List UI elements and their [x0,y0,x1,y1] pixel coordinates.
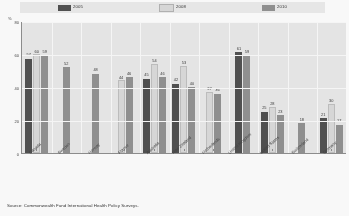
x-tick-mark [243,149,244,151]
y-axis-unit-label: % [8,16,12,21]
y-tick-label: 60 [15,53,19,58]
bar-value-label: 61 [237,47,241,51]
group-separator [111,22,112,153]
group-separator [317,22,318,153]
bar-value-label: 30 [329,99,333,103]
group-separator [258,22,259,153]
gridline [22,121,346,122]
group-separator [140,22,141,153]
group-separator [81,22,82,153]
bar-value-label: 45 [144,73,148,77]
bar-2010: 40 [188,87,195,153]
x-tick-mark [184,149,185,151]
bar-2010: 59 [41,56,48,153]
bar-2010: 48 [92,74,99,153]
y-tick-label: 40 [15,86,19,91]
plot-area: % 806040200 5760595248444645544642534037… [0,16,349,161]
x-tick-mark [213,149,214,151]
bar-value-label: 42 [174,78,178,82]
group-separator [52,22,53,153]
bar-value-label: 25 [262,106,266,110]
bar-value-label: 59 [43,50,47,54]
bar-value-label: 46 [127,72,131,76]
y-tick-label: 0 [17,152,19,157]
legend-swatch-icon [159,4,174,12]
chart-legend: 200520082010 [20,2,325,13]
x-axis-category: France [110,150,140,196]
y-axis: 806040200 [0,22,21,154]
bar-2010: 52 [63,67,70,153]
x-axis-category: Sweden [51,150,81,196]
chart-page: 200520082010 % 806040200 576059524844464… [0,0,349,216]
x-axis-category: Switzerland [287,150,317,196]
x-axis-labels: CanadaSwedenNorwayFranceAustraliaNew Zea… [21,150,346,196]
group-separator [199,22,200,153]
bar-value-label: 54 [152,59,156,63]
y-tick-label: 20 [15,119,19,124]
bar-value-label: 48 [93,68,97,72]
legend-label: 2008 [176,5,186,9]
x-tick-mark [302,149,303,151]
x-tick-mark [331,149,332,151]
bar-value-label: 60 [35,50,39,54]
legend-item-2008: 2008 [159,4,186,12]
bar-value-label: 52 [64,62,68,66]
bar-value-label: 28 [270,102,274,106]
bar-2005: 57 [25,59,32,153]
bar-2005: 45 [143,79,150,153]
group-separator [229,22,230,153]
x-axis-category: United Kingdom [228,150,258,196]
bar-value-label: 53 [182,61,186,65]
x-axis-category: Canada [21,150,51,196]
bar-value-label: 46 [160,72,164,76]
bar-2008: 44 [118,80,125,153]
x-axis-category: Norway [80,150,110,196]
bar-value-label: 21 [321,113,325,117]
legend-swatch-icon [58,5,71,11]
x-tick-mark [272,149,273,151]
legend-item-2010: 2010 [262,5,287,11]
bar-value-label: 59 [245,50,249,54]
legend-label: 2005 [73,5,83,9]
x-axis-category: United States [257,150,287,196]
group-separator [288,22,289,153]
bar-2008: 60 [33,54,40,153]
legend-item-2005: 2005 [58,5,83,11]
gridline [22,88,346,89]
x-axis-category: Netherlands [198,150,228,196]
legend-swatch-icon [262,5,275,11]
gridline [22,55,346,56]
y-tick-label: 80 [15,20,19,25]
bar-value-label: 44 [119,76,123,80]
plot-panel: 5760595248444645544642534037366159252823… [21,22,346,154]
bar-value-label: 23 [278,110,282,114]
gridline [22,22,346,23]
x-axis-category: New Zealand [169,150,199,196]
legend-label: 2010 [277,5,287,9]
x-axis-category: Germany [316,150,346,196]
group-separator [170,22,171,153]
source-note: Source: Commonwealth Fund International … [7,203,139,208]
bar-value-label: 40 [190,82,194,86]
bar-2010: 17 [336,125,343,153]
x-axis-category: Australia [139,150,169,196]
